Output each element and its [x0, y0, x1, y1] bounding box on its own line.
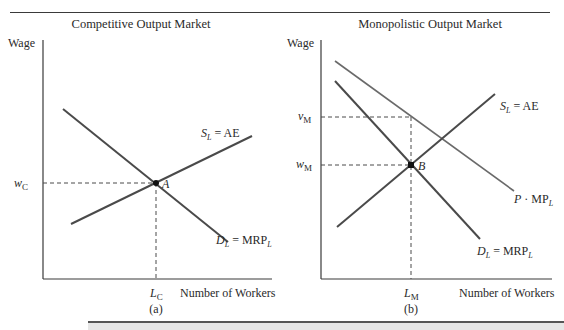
- panel-b-wage-marker: wM: [296, 157, 312, 173]
- panel-b-x-axis-label: Number of Workers: [459, 286, 555, 300]
- panel-a-equilibrium-dot: [153, 180, 159, 186]
- panel-a-labor-marker: LC: [149, 286, 163, 302]
- panel-a-y-axis-label: Wage: [8, 36, 35, 50]
- panel-a-x-axis-label: Number of Workers: [180, 286, 276, 300]
- panel-b-title: Monopolistic Output Market: [358, 17, 502, 31]
- panel-b-demand-curve: [335, 81, 480, 239]
- bottom-caption-bar: [88, 321, 564, 330]
- panel-a-title: Competitive Output Market: [72, 17, 211, 31]
- panel-a-wage-marker: wC: [14, 176, 28, 192]
- panel-b-demand-label: DL = MRPL: [476, 244, 533, 260]
- panel-a-demand-label: DL = MRPL: [215, 233, 272, 249]
- panel-b-value-marker: vM: [298, 109, 311, 125]
- panel-b-monopolistic: Monopolistic Output Market Wage B SL = A…: [287, 17, 555, 316]
- panel-b-supply-label: SL = AE: [500, 99, 539, 115]
- panel-a-point-label: A: [161, 177, 170, 191]
- panel-b-value-mp-label: P · MPL: [513, 192, 554, 208]
- panel-b-equilibrium-dot: [408, 162, 414, 168]
- panel-b-point-label: B: [418, 159, 426, 173]
- panel-a-competitive: Competitive Output Market Wage A SL = AE…: [8, 17, 276, 316]
- panel-b-labor-marker: LM: [403, 286, 419, 302]
- panel-a-caption: (a): [149, 302, 162, 316]
- panel-b-y-axis-label: Wage: [287, 36, 314, 50]
- panel-b-caption: (b): [404, 302, 418, 316]
- panel-a-supply-label: SL = AE: [201, 126, 240, 142]
